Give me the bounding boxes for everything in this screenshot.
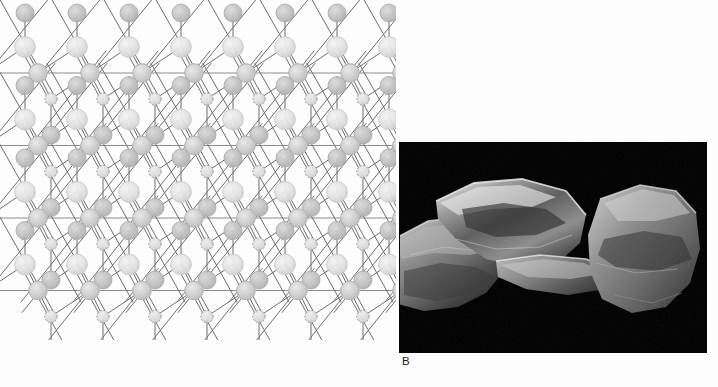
atom-basal-oxygen	[237, 281, 255, 299]
atom-interlayer-cation	[253, 165, 265, 177]
atom-vertex-node	[276, 222, 294, 240]
atom-interlayer-cation	[253, 93, 265, 105]
atom-interlayer-cation	[201, 238, 213, 250]
atom-apical-oxygen	[15, 254, 36, 275]
atom-vertex-node	[276, 4, 294, 22]
atom-apical-oxygen	[119, 182, 140, 203]
atom-interlayer-cation	[45, 238, 57, 250]
atom-apical-oxygen	[275, 37, 296, 58]
atom-vertex-node	[120, 4, 138, 22]
atom-apical-oxygen	[379, 254, 396, 275]
bond-line	[125, 269, 210, 341]
atom-vertex-node	[276, 77, 294, 95]
atom-interlayer-cation	[201, 93, 213, 105]
atom-vertex-node	[224, 4, 242, 22]
atom-apical-oxygen	[15, 37, 36, 58]
atom-apical-oxygen	[119, 37, 140, 58]
atom-interlayer-cation	[253, 310, 265, 322]
micrograph-grain	[400, 143, 706, 352]
atom-apical-oxygen	[223, 254, 244, 275]
atom-interlayer-cation	[149, 238, 161, 250]
atom-apical-oxygen	[15, 182, 36, 203]
atom-vertex-node	[16, 149, 34, 167]
micrograph-svg	[400, 143, 706, 352]
atom-basal-oxygen	[185, 281, 203, 299]
atom-basal-oxygen	[341, 281, 359, 299]
atom-vertex-node	[380, 4, 396, 22]
atom-apical-oxygen	[223, 109, 244, 130]
atom-basal-oxygen	[289, 281, 307, 299]
atom-interlayer-cation	[45, 310, 57, 322]
atom-vertex-node	[224, 222, 242, 240]
atom-vertex-node	[328, 77, 346, 95]
atom-interlayer-cation	[201, 310, 213, 322]
atom-apical-oxygen	[171, 182, 192, 203]
bond-line	[385, 269, 396, 341]
atom-apical-oxygen	[171, 109, 192, 130]
atom-vertex-node	[224, 77, 242, 95]
atom-interlayer-cation	[149, 310, 161, 322]
atom-interlayer-cation	[305, 238, 317, 250]
atom-apical-oxygen	[119, 254, 140, 275]
atom-apical-oxygen	[67, 109, 88, 130]
atom-vertex-node	[172, 149, 190, 167]
atom-apical-oxygen	[171, 37, 192, 58]
atom-vertex-node	[276, 149, 294, 167]
atom-apical-oxygen	[379, 109, 396, 130]
atom-vertex-node	[16, 4, 34, 22]
atom-apical-oxygen	[15, 109, 36, 130]
bond-line	[177, 269, 262, 341]
bond-line	[73, 269, 158, 341]
panel-b-micrograph	[400, 143, 706, 352]
atom-vertex-node	[68, 149, 86, 167]
atom-interlayer-cation	[97, 165, 109, 177]
atom-vertex-node	[68, 222, 86, 240]
bond-line	[281, 269, 366, 341]
atom-interlayer-cation	[149, 165, 161, 177]
bond-line	[229, 269, 314, 341]
atom-apical-oxygen	[67, 182, 88, 203]
lattice-diagram-svg	[0, 0, 396, 340]
atom-interlayer-cation	[149, 93, 161, 105]
atom-interlayer-cation	[357, 310, 369, 322]
atom-interlayer-cation	[45, 93, 57, 105]
atom-interlayer-cation	[357, 165, 369, 177]
atom-apical-oxygen	[119, 109, 140, 130]
atom-interlayer-cation	[201, 165, 213, 177]
atom-vertex-node	[172, 222, 190, 240]
atom-basal-oxygen	[81, 281, 99, 299]
atom-vertex-node	[120, 77, 138, 95]
atom-apical-oxygen	[223, 182, 244, 203]
atom-apical-oxygen	[67, 37, 88, 58]
lattice-layer	[0, 0, 396, 340]
atom-apical-oxygen	[171, 254, 192, 275]
atom-apical-oxygen	[275, 254, 296, 275]
atom-interlayer-cation	[97, 310, 109, 322]
atom-vertex-node	[16, 222, 34, 240]
atom-apical-oxygen	[275, 109, 296, 130]
atom-interlayer-cation	[305, 165, 317, 177]
panel-a-lattice-diagram: A	[0, 0, 396, 340]
atom-apical-oxygen	[379, 37, 396, 58]
atom-interlayer-cation	[45, 165, 57, 177]
atom-vertex-node	[380, 149, 396, 167]
atom-interlayer-cation	[305, 93, 317, 105]
atom-interlayer-cation	[97, 238, 109, 250]
atom-apical-oxygen	[327, 254, 348, 275]
atom-interlayer-cation	[97, 93, 109, 105]
atom-apical-oxygen	[327, 109, 348, 130]
figure-root: A	[0, 0, 718, 387]
atom-vertex-node	[16, 77, 34, 95]
atom-interlayer-cation	[305, 310, 317, 322]
atom-vertex-node	[68, 77, 86, 95]
atom-apical-oxygen	[275, 182, 296, 203]
panel-label-b: B	[402, 356, 410, 368]
atom-vertex-node	[120, 149, 138, 167]
atom-vertex-node	[328, 4, 346, 22]
atom-apical-oxygen	[327, 182, 348, 203]
atom-vertex-node	[172, 77, 190, 95]
atom-vertex-node	[172, 4, 190, 22]
atom-vertex-node	[380, 222, 396, 240]
atom-interlayer-cation	[357, 93, 369, 105]
atom-vertex-node	[224, 149, 242, 167]
